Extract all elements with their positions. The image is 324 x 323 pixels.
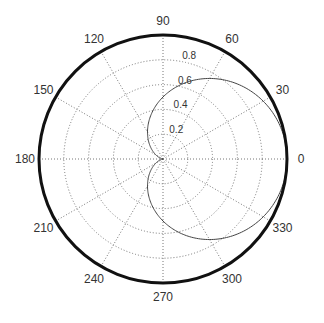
angle-spoke	[56, 159, 163, 221]
angle-tick-label: 210	[33, 221, 53, 235]
angle-tick-label: 150	[33, 83, 53, 97]
radial-tick-label: 0.6	[178, 75, 192, 86]
angle-tick-label: 90	[156, 14, 170, 28]
angle-tick-label: 120	[84, 32, 104, 46]
angle-tick-label: 180	[15, 152, 35, 166]
angle-tick-label: 60	[225, 32, 239, 46]
angle-tick-label: 240	[84, 272, 104, 286]
angle-tick-label: 330	[272, 221, 292, 235]
radial-tick-label: 0.8	[182, 50, 196, 61]
angle-tick-label: 30	[276, 83, 290, 97]
angle-tick-label: 300	[222, 272, 242, 286]
angle-spoke	[163, 159, 225, 266]
angle-spoke	[101, 159, 163, 266]
angle-spoke	[101, 52, 163, 159]
angle-spoke	[163, 52, 225, 159]
angle-spoke	[163, 159, 270, 221]
radial-tick-label: 0.2	[169, 124, 183, 135]
polar-plot: 0.20.40.60.80306090120150180210240270300…	[0, 0, 324, 323]
angle-tick-label: 270	[153, 290, 173, 304]
angle-tick-label: 0	[298, 152, 305, 166]
angle-spoke	[56, 97, 163, 159]
radial-tick-label: 0.4	[174, 99, 188, 110]
